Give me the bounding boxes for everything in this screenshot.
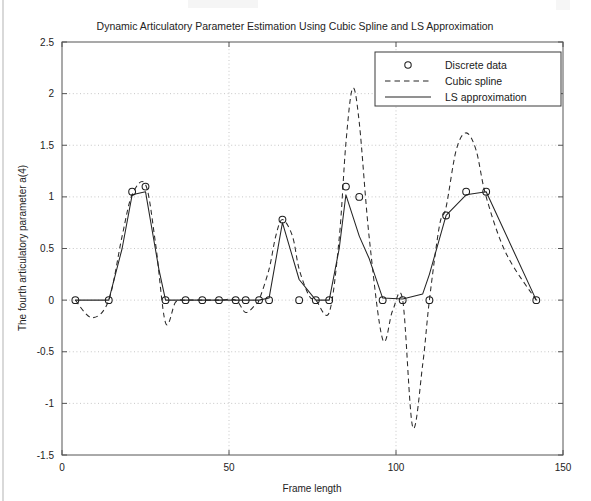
y-tick-label: 2 — [48, 88, 54, 99]
legend-label: Cubic spline — [445, 75, 502, 87]
x-tick-label: 150 — [555, 462, 572, 473]
y-tick-label: 2.5 — [40, 37, 54, 48]
y-tick-label: 0.5 — [40, 243, 54, 254]
figure-container: Dynamic Articulatory Parameter Estimatio… — [0, 0, 591, 501]
chart-legend[interactable]: Discrete dataCubic splineLS approximatio… — [375, 52, 561, 106]
x-tick-label: 100 — [388, 462, 405, 473]
x-tick-label: 50 — [223, 462, 235, 473]
legend-label: LS approximation — [445, 91, 527, 103]
scan-edge-artifact — [2, 0, 4, 501]
y-tick-label: 1 — [48, 191, 54, 202]
chart-canvas: Dynamic Articulatory Parameter Estimatio… — [0, 0, 591, 501]
y-tick-label: -0.5 — [37, 346, 55, 357]
scan-smudge-top — [188, 0, 258, 8]
chart-title: Dynamic Articulatory Parameter Estimatio… — [97, 20, 494, 32]
x-axis-label: Frame length — [283, 483, 342, 494]
y-tick-label: -1.5 — [37, 450, 55, 461]
y-axis-label: The fourth articulatory parameter a(4) — [17, 165, 28, 331]
scan-smudge-top-right — [556, 0, 570, 10]
x-tick-label: 0 — [59, 462, 65, 473]
y-tick-label: 0 — [48, 295, 54, 306]
legend-label: Discrete data — [445, 59, 507, 71]
y-tick-label: 1.5 — [40, 140, 54, 151]
y-tick-label: -1 — [45, 398, 54, 409]
